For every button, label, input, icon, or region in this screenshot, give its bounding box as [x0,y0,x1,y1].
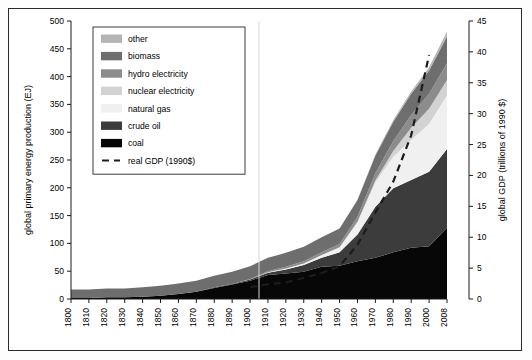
y-ticklabel-left: 200 [50,183,64,193]
x-ticklabel: 1970 [367,308,377,327]
energy-gdp-chart: 0501001502002503003504004505000510152025… [9,9,521,350]
y-ticklabel-left: 0 [59,294,64,304]
legend-label: crude oil [128,121,161,131]
x-ticklabel: 1960 [349,308,359,327]
legend-label: coal [128,138,144,148]
y-ticklabel-right: 0 [477,294,482,304]
x-ticklabel: 1900 [242,308,252,327]
legend-label: other [128,34,148,44]
legend-box [93,27,245,174]
legend-swatch-crude-oil [101,122,122,130]
legend-swatch-coal [101,139,122,147]
legend-label: biomass [128,51,160,61]
x-ticklabel: 1920 [278,308,288,327]
chart-figure: 0501001502002503003504004505000510152025… [0,0,532,360]
y-ticklabel-left: 300 [50,127,64,137]
legend-swatch-nuclear-electricity [101,87,122,95]
x-ticklabel: 1820 [99,308,109,327]
legend-swatch-biomass [101,52,122,60]
x-ticklabel: 1850 [153,308,163,327]
legend-swatch-natural-gas [101,104,122,112]
x-ticklabel: 1830 [117,308,127,327]
y-ticklabel-right: 10 [477,232,487,242]
x-ticklabel: 1860 [170,308,180,327]
y-axis-title-left: global primary energy production (EJ) [23,85,33,235]
x-ticklabel: 1810 [81,308,91,327]
y-ticklabel-right: 25 [477,140,487,150]
x-ticklabel: 1990 [403,308,413,327]
y-ticklabel-left: 400 [50,72,64,82]
chart-frame: 0501001502002503003504004505000510152025… [8,8,522,351]
legend-label: natural gas [128,104,171,114]
x-ticklabel: 1910 [260,308,270,327]
x-ticklabel: 1980 [385,308,395,327]
x-ticklabel: 1890 [224,308,234,327]
x-ticklabel: 2000 [421,308,431,327]
legend-swatch-other [101,35,122,43]
legend-label: real GDP (1990$) [128,156,195,166]
y-ticklabel-right: 45 [477,16,487,26]
x-ticklabel: 1930 [296,308,306,327]
y-ticklabel-left: 50 [55,266,65,276]
y-ticklabel-right: 15 [477,201,487,211]
y-ticklabel-right: 40 [477,47,487,57]
y-ticklabel-left: 500 [50,16,64,26]
y-ticklabel-left: 150 [50,211,64,221]
y-axis-title-right: global GDP (trillions of 1990 $) [497,99,507,221]
x-ticklabel: 1940 [314,308,324,327]
x-ticklabel: 2008 [439,308,449,327]
x-ticklabel: 1840 [135,308,145,327]
y-ticklabel-left: 350 [50,99,64,109]
y-ticklabel-right: 35 [477,78,487,88]
legend-label: hydro electricity [128,69,188,79]
x-ticklabel: 1800 [63,308,73,327]
x-ticklabel: 1870 [188,308,198,327]
y-ticklabel-left: 450 [50,44,64,54]
y-ticklabel-right: 5 [477,263,482,273]
legend-swatch-hydro-electricity [101,69,122,77]
legend-label: nuclear electricity [128,86,195,96]
y-ticklabel-right: 20 [477,170,487,180]
y-ticklabel-right: 30 [477,109,487,119]
y-ticklabel-left: 100 [50,238,64,248]
x-ticklabel: 1950 [332,308,342,327]
y-ticklabel-left: 250 [50,155,64,165]
x-ticklabel: 1880 [206,308,216,327]
